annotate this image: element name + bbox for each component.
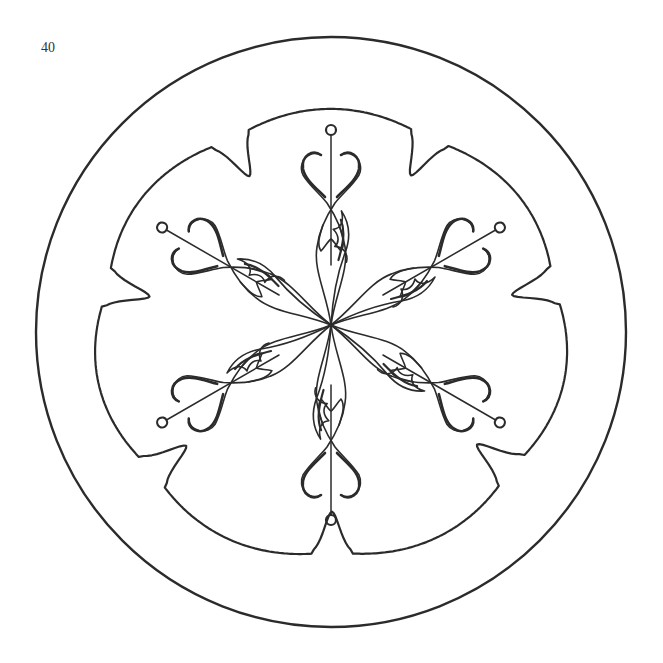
motif-arm <box>316 299 519 450</box>
motif-arm <box>301 125 360 325</box>
leaf-petal <box>279 325 373 439</box>
mandala-drawing <box>0 0 663 663</box>
motif-arm <box>301 325 360 525</box>
motif-arm <box>143 199 346 350</box>
leaf-petal <box>289 211 383 325</box>
floral-motif <box>143 125 519 525</box>
